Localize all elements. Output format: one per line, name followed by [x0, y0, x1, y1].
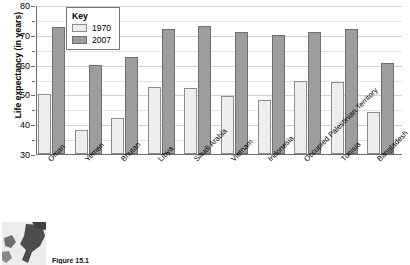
world-map-icon: [2, 222, 46, 265]
bar-2007: [308, 32, 321, 154]
legend-item-1970: 1970: [72, 23, 111, 33]
y-tick-mark: [31, 66, 35, 67]
y-tick-label: 40: [8, 120, 30, 130]
y-tick-mark: [31, 6, 35, 7]
bar-2007: [235, 32, 248, 154]
bar-group: [257, 6, 294, 154]
y-tick-label: 70: [8, 31, 30, 41]
bar-2007: [345, 29, 358, 154]
legend-item-2007: 2007: [72, 35, 111, 45]
y-tick-label: 80: [8, 1, 30, 11]
bar-1970: [367, 112, 380, 154]
bar-group: [366, 6, 403, 154]
y-tick-minor: [32, 110, 35, 111]
x-axis-labels: OmanYemenBhutanLibyaSaudi ArabiaVietnamI…: [36, 155, 402, 230]
legend-label-1970: 1970: [92, 23, 111, 33]
legend: Key 1970 2007: [66, 7, 120, 50]
bar-group: [293, 6, 330, 154]
bar-1970: [148, 87, 161, 154]
bar-1970: [111, 118, 124, 154]
legend-title: Key: [72, 11, 111, 21]
bar-1970: [221, 96, 234, 154]
figure-caption: Figure 15.1: [52, 257, 402, 264]
y-tick-minor: [32, 51, 35, 52]
y-tick-label: 50: [8, 90, 30, 100]
y-tick-minor: [32, 140, 35, 141]
y-tick-mark: [31, 95, 35, 96]
y-tick-mark: [31, 36, 35, 37]
bar-1970: [294, 81, 307, 154]
bar-1970: [258, 100, 271, 154]
legend-swatch-1970: [72, 24, 87, 32]
y-tick-minor: [32, 81, 35, 82]
bar-1970: [75, 130, 88, 154]
bar-2007: [162, 29, 175, 154]
bar-group: [147, 6, 184, 154]
y-tick-mark: [31, 125, 35, 126]
world-map-thumbnail: [2, 222, 46, 265]
legend-label-2007: 2007: [92, 35, 111, 45]
bar-2007: [272, 35, 285, 154]
bar-2007: [52, 27, 65, 154]
bar-2007: [198, 26, 211, 154]
bar-group: [183, 6, 220, 154]
legend-swatch-2007: [72, 36, 87, 44]
bar-1970: [38, 94, 51, 154]
y-tick-label: 60: [8, 61, 30, 71]
y-tick-minor: [32, 21, 35, 22]
bar-1970: [184, 88, 197, 154]
y-tick-mark: [31, 155, 35, 156]
y-tick-label: 30: [8, 150, 30, 160]
